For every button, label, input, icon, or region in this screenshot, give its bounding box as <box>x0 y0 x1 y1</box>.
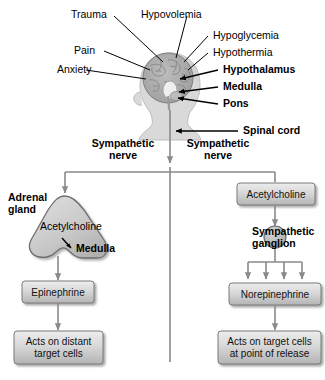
adrenal-gland-line1: Adrenal <box>8 191 47 203</box>
sympathetic-ganglion-line2: ganglion <box>252 237 296 249</box>
label-spinal-cord: Spinal cord <box>243 125 300 137</box>
right-outcome-box <box>218 331 321 364</box>
label-adrenal-gland: Adrenal gland <box>8 191 47 215</box>
label-hypovolemia: Hypovolemia <box>141 9 202 21</box>
sympathetic-nerve-left-line1: Sympathetic <box>92 137 154 149</box>
label-hypothermia: Hypothermia <box>213 47 273 59</box>
leader-hypoglycemia <box>184 36 208 62</box>
label-sympathetic-ganglion: Sympathetic ganglion <box>252 225 314 249</box>
left-outcome-box <box>14 331 103 364</box>
label-hypothalamus: Hypothalamus <box>223 64 295 76</box>
adrenal-gland-line2: gland <box>8 203 36 215</box>
label-anxiety: Anxiety <box>57 64 91 76</box>
label-hypoglycemia: Hypoglycemia <box>213 30 279 42</box>
leader-hypovolemia <box>176 16 187 58</box>
label-adrenal-acetylcholine: Acetylcholine <box>40 221 102 233</box>
sympathetic-ganglion-line1: Sympathetic <box>252 225 314 237</box>
label-sympathetic-nerve-left: Sympathetic nerve <box>81 138 165 161</box>
diagram-root: Trauma Hypovolemia Pain Anxiety Hypoglyc… <box>0 0 325 380</box>
leader-pain <box>104 51 150 70</box>
sympathetic-nerve-right-line2: nerve <box>204 149 232 161</box>
leader-trauma <box>114 16 163 62</box>
label-adrenal-medulla: Medulla <box>76 243 115 255</box>
label-trauma: Trauma <box>71 9 107 21</box>
label-sympathetic-nerve-right: Sympathetic nerve <box>176 138 260 161</box>
label-pons: Pons <box>223 98 249 110</box>
sympathetic-nerve-right-line1: Sympathetic <box>187 137 249 149</box>
epinephrine-box <box>22 281 94 303</box>
acetylcholine-box <box>237 183 315 205</box>
label-pain: Pain <box>74 45 95 57</box>
label-medulla-brain: Medulla <box>223 81 262 93</box>
leader-anxiety <box>86 70 146 79</box>
ganglion-branches <box>248 248 302 279</box>
sympathetic-nerve-left-line2: nerve <box>109 149 137 161</box>
diagram-canvas <box>0 0 325 380</box>
norepinephrine-box <box>229 283 321 305</box>
